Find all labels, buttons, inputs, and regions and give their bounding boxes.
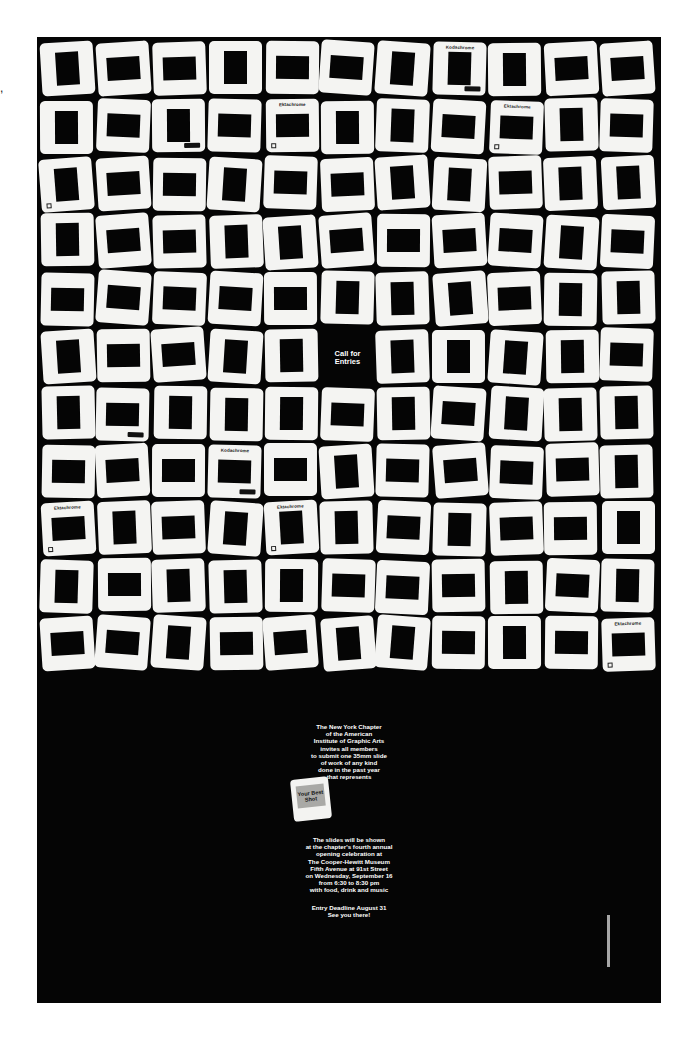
slide-window — [617, 511, 640, 544]
slide-mount — [376, 444, 430, 498]
slide-mount — [95, 212, 152, 269]
detail-line: The slides will be shown — [249, 836, 449, 843]
slide-mount — [545, 615, 599, 669]
slide-mount — [432, 442, 489, 499]
slide-mount — [433, 270, 490, 327]
slide-mount — [601, 558, 655, 612]
slide-mount — [375, 500, 431, 556]
kodak-logo-icon — [271, 546, 276, 551]
slide-mount — [39, 615, 95, 671]
slide-window — [50, 631, 84, 656]
slide-mount — [488, 329, 545, 386]
slide-mount — [599, 327, 654, 382]
slide-mount — [95, 40, 151, 96]
slide-mount — [38, 156, 95, 213]
slide-mount — [318, 39, 375, 96]
slide-window — [163, 173, 196, 196]
slide-mount — [375, 98, 430, 153]
slide-window — [330, 402, 364, 426]
slide-mount — [207, 328, 263, 384]
slide-window — [555, 56, 589, 81]
slide-window — [614, 455, 638, 488]
slide-mount — [264, 387, 318, 441]
slide-window — [392, 397, 416, 430]
slide-mount — [489, 444, 544, 499]
deadline-line: See you there! — [249, 911, 449, 918]
slide-mount — [599, 444, 653, 498]
slide-brand-label: Kodachrome — [433, 44, 486, 50]
slide-mount — [209, 617, 263, 671]
slide-window — [222, 167, 247, 201]
slide-window — [391, 108, 415, 142]
entry-deadline: Entry Deadline August 31 See you there! — [249, 904, 449, 918]
slide-mount — [431, 616, 485, 670]
slide-mount — [320, 500, 374, 554]
slide-mount — [601, 270, 655, 324]
slide-mount — [96, 98, 151, 153]
slide-window — [224, 398, 248, 431]
slide-window — [447, 167, 472, 201]
slide-mount — [264, 328, 318, 382]
slide-window — [107, 171, 141, 196]
slide-window — [499, 228, 533, 253]
slide-window — [503, 340, 528, 375]
slide-window — [555, 573, 589, 598]
slide-window — [560, 108, 584, 142]
slide-brand-label: Ektachrome — [601, 621, 654, 628]
slide-window — [561, 340, 584, 373]
slide-window — [162, 459, 195, 482]
slide-window — [57, 396, 81, 430]
slide-window — [441, 631, 474, 654]
slide-window — [443, 457, 478, 483]
slide-window — [333, 454, 358, 488]
detail-line: Fifth Avenue at 91st Street — [249, 865, 449, 872]
slide-mount — [432, 330, 485, 383]
slide-window — [223, 339, 248, 373]
slide-window — [55, 52, 80, 86]
slide-mount — [545, 442, 600, 497]
slide-mount — [262, 614, 319, 671]
slide-mount — [206, 156, 262, 212]
slide-mount — [150, 614, 207, 671]
slide-window — [442, 574, 475, 598]
slide-mount — [377, 387, 431, 441]
slide-window — [162, 515, 196, 539]
slide-window — [448, 281, 473, 316]
slide-window — [274, 458, 307, 481]
slide-mount — [207, 270, 263, 326]
slide-mount — [375, 560, 430, 615]
slide-window — [447, 52, 471, 86]
slide-window — [107, 114, 141, 138]
slide-window — [558, 166, 582, 200]
slide-mount — [152, 98, 205, 151]
slide-mount — [97, 328, 151, 382]
slide-mount — [489, 501, 544, 556]
slide-mount — [489, 385, 545, 441]
slide-window — [610, 343, 644, 367]
slide-window — [112, 510, 136, 544]
slide-window — [499, 516, 533, 540]
slide-window — [386, 459, 420, 483]
slide-window — [223, 511, 248, 546]
kodak-logo-icon — [494, 144, 499, 149]
slide-window — [56, 223, 80, 256]
slide-brand-label: Ektachrome — [266, 102, 319, 108]
slide-mount — [544, 273, 598, 327]
slide-mount — [97, 499, 152, 554]
slide-mount — [546, 330, 600, 384]
slide-window — [615, 395, 639, 429]
slide-mount — [488, 43, 541, 96]
slide-mount — [265, 41, 318, 94]
slide-window — [499, 170, 533, 194]
slide-mount — [152, 158, 206, 212]
slide-mount — [374, 154, 430, 210]
invite-line: of work of any kind — [249, 759, 449, 766]
kodak-logo-icon — [47, 204, 52, 209]
slide-mount — [544, 40, 600, 96]
slide-mount — [207, 99, 261, 153]
your-best-shot-slide: Your Best Shot — [290, 776, 332, 822]
slide-window — [163, 286, 197, 310]
slide-mount — [321, 100, 374, 153]
slide-mount: Ektachrome — [41, 501, 97, 557]
slide-mount — [152, 271, 207, 326]
